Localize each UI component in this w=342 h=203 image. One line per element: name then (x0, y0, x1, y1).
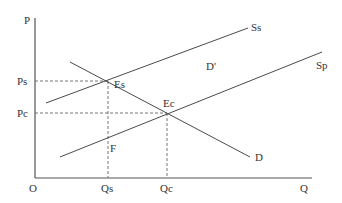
supply-demand-diagram: P Q O Ps Pc Qs Qc Ss Sp D Es Ec F D' (0, 0, 342, 203)
curve-label-sp: Sp (316, 59, 328, 71)
curve-label-d: D (255, 151, 263, 163)
demand-curve-d (70, 62, 250, 157)
y-axis-label: P (24, 14, 30, 26)
annotation-d-prime: D' (206, 60, 216, 72)
price-ps-label: Ps (17, 75, 27, 87)
point-label-f: F (110, 142, 116, 154)
price-pc-label: Pc (17, 107, 28, 119)
quantity-qs-label: Qs (101, 182, 113, 194)
quantity-qc-label: Qc (160, 182, 173, 194)
curve-label-ss: Ss (251, 21, 261, 33)
origin-label: O (29, 182, 37, 194)
x-axis-label: Q (300, 182, 308, 194)
point-label-ec: Ec (163, 97, 175, 109)
supply-curve-sp (60, 52, 322, 157)
point-label-es: Es (114, 78, 125, 90)
